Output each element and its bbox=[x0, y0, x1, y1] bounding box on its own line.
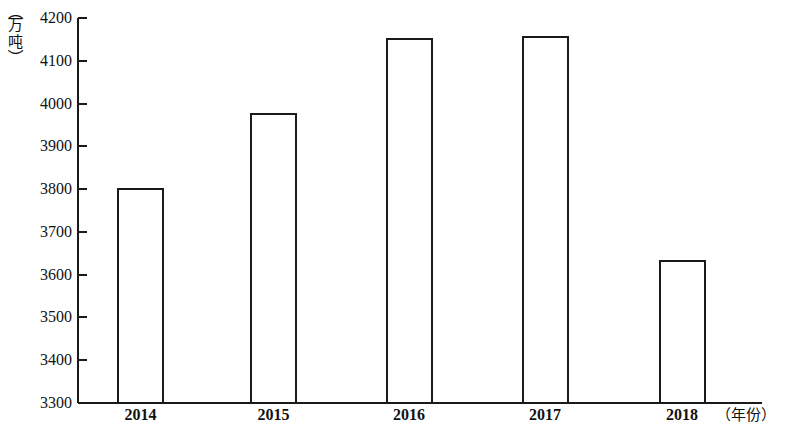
plot-area bbox=[0, 0, 788, 429]
bar-2018 bbox=[660, 261, 705, 403]
bar-2017 bbox=[523, 37, 568, 403]
bar-rect bbox=[523, 37, 568, 403]
bar-rect bbox=[660, 261, 705, 403]
bar-rect bbox=[118, 189, 163, 403]
bar-rect bbox=[251, 114, 296, 403]
bar-chart: （ 万 吨 ） 42004100400039003800370036003500… bbox=[0, 0, 788, 429]
bar-2016 bbox=[387, 39, 432, 403]
bar-2014 bbox=[118, 189, 163, 403]
bar-2015 bbox=[251, 114, 296, 403]
bar-rect bbox=[387, 39, 432, 403]
